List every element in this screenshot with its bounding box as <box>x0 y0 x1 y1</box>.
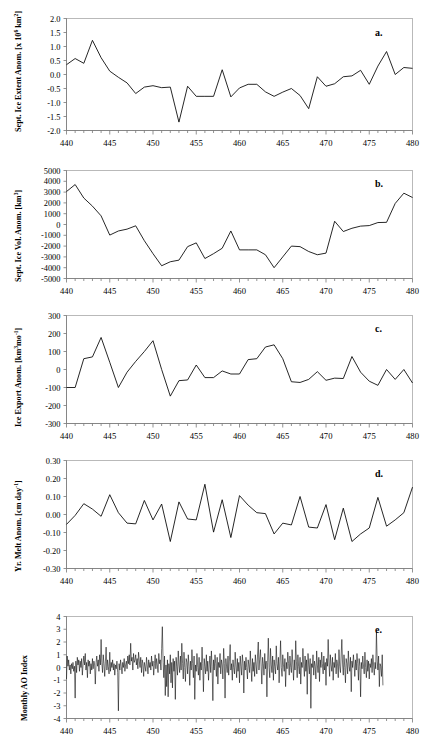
panel-e-xtick-label: 455 <box>190 726 203 736</box>
panel-e-ytick-label: -3 <box>54 702 61 711</box>
panel-e-ytick-label: 2 <box>56 638 60 647</box>
panel-d-xtick-label: 440 <box>60 576 73 586</box>
panel-e-letter: e. <box>375 624 382 635</box>
panel-e-y-ticks: 43210-1-2-3-4 <box>54 613 67 724</box>
panel-e-series-line <box>67 627 383 711</box>
panel-a-ytick-label: 0.0 <box>50 71 60 80</box>
panel-c-xtick-label: 455 <box>190 431 203 441</box>
panel-d-xtick-label: 455 <box>190 576 203 586</box>
panel-c-letter: c. <box>375 323 382 334</box>
panel-e-ytick-label: 4 <box>56 613 61 622</box>
panel-c-plot-frame <box>67 316 413 424</box>
panel-d-ylabel: Yr. Melt Anom. [cm day-1] <box>13 480 23 572</box>
panel-a-xtick-label: 460 <box>233 138 246 148</box>
panel-b-ytick-label: 4000 <box>44 177 61 186</box>
panel-c-ytick-label: -100 <box>45 384 60 393</box>
panel-e-xtick-label: 470 <box>320 726 333 736</box>
panel-a-ylabel-group: Sept. Ice Extent Anom. [x 106 km2] <box>13 11 23 132</box>
panel-c-ytick-label: 200 <box>48 330 61 339</box>
panel-b-xtick-label: 460 <box>233 286 246 296</box>
panel-b-svg: Sept. Ice Vol. Anom. [km3] 5000400030002… <box>0 160 424 305</box>
panel-d-xtick-label: 465 <box>276 576 289 586</box>
panel-a-ytick-label: -2.0 <box>47 127 60 136</box>
panel-b-y-ticks: 500040003000200010000-1000-2000-3000-400… <box>41 167 67 284</box>
panel-a-y-ticks: 2.01.51.00.50.0-0.5-1.0-1.5-2.0 <box>47 15 66 136</box>
panel-a-ytick-label: 2.0 <box>50 15 60 24</box>
panel-b-ylabel: Sept. Ice Vol. Anom. [km3] <box>13 190 23 282</box>
panel-a-xtick-label: 445 <box>103 138 116 148</box>
panel-b-ytick-label: 2000 <box>44 199 61 208</box>
panel-e: Monthly AO Index 43210-1-2-3-4 440445450… <box>0 595 424 754</box>
panel-e-ytick-label: -2 <box>54 689 61 698</box>
panel-d-ytick-label: 0.20 <box>46 475 61 484</box>
panel-d-xtick-label: 450 <box>147 576 160 586</box>
panel-a-xtick-label: 465 <box>276 138 289 148</box>
panel-b-ytick-label: 5000 <box>44 167 61 176</box>
panel-c-xtick-label: 465 <box>276 431 289 441</box>
panel-b-xtick-label: 445 <box>103 286 116 296</box>
panel-c-xtick-label: 440 <box>60 431 73 441</box>
panel-c-ylabel: Ice Export Anom. [km3mo-1] <box>13 327 23 427</box>
panel-c-xtick-label: 460 <box>233 431 246 441</box>
panel-d-ytick-label: -0.20 <box>43 547 60 556</box>
panel-a-x-ticks: 440445450455460465470475480 <box>60 131 419 149</box>
panel-b-ylabel-group: Sept. Ice Vol. Anom. [km3] <box>13 190 23 282</box>
panel-c-xtick-label: 475 <box>363 431 376 441</box>
panel-e-xtick-label: 475 <box>363 726 376 736</box>
panel-c-y-ticks: 3002001000-100-200-300 <box>45 312 66 429</box>
panel-a-svg: Sept. Ice Extent Anom. [x 106 km2] 2.01.… <box>0 0 424 160</box>
panel-c-ytick-label: 300 <box>48 312 61 321</box>
panel-d-y-ticks: 0.300.200.100.00-0.10-0.20-0.30 <box>43 457 66 574</box>
panel-d: Yr. Melt Anom. [cm day-1] 0.300.200.100.… <box>0 450 424 595</box>
panel-a-ytick-label: -1.5 <box>47 113 60 122</box>
panel-a-xtick-label: 475 <box>363 138 376 148</box>
panel-b-ytick-label: -2000 <box>41 242 61 251</box>
panel-e-ytick-label: 1 <box>56 651 60 660</box>
panel-e-ylabel-group: Monthly AO Index <box>20 654 29 721</box>
panel-a-ytick-label: -0.5 <box>47 85 60 94</box>
panel-a-xtick-label: 450 <box>147 138 160 148</box>
panel-b-ytick-label: 3000 <box>44 188 61 197</box>
panel-b-ytick-label: -1000 <box>41 231 61 240</box>
panel-e-ytick-label: -1 <box>54 676 61 685</box>
panel-d-xtick-label: 475 <box>363 576 376 586</box>
panel-e-x-ticks: 440445450455460465470475480 <box>60 719 419 737</box>
panel-c-svg: Ice Export Anom. [km3mo-1] 3002001000-10… <box>0 305 424 450</box>
panel-a-series-line <box>67 40 413 122</box>
panel-c: Ice Export Anom. [km3mo-1] 3002001000-10… <box>0 305 424 450</box>
panel-c-xtick-label: 445 <box>103 431 116 441</box>
panel-d-series-line <box>67 484 413 541</box>
panel-c-xtick-label: 480 <box>406 431 419 441</box>
panel-a-ylabel: Sept. Ice Extent Anom. [x 106 km2] <box>13 11 23 132</box>
panel-b-xtick-label: 475 <box>363 286 376 296</box>
panel-d-ytick-label: 0.10 <box>46 493 61 502</box>
panel-b-xtick-label: 465 <box>276 286 289 296</box>
panel-b-ytick-label: -4000 <box>41 264 61 273</box>
panel-b: Sept. Ice Vol. Anom. [km3] 5000400030002… <box>0 160 424 305</box>
panel-b-ytick-label: -5000 <box>41 275 61 284</box>
panel-b-x-ticks: 440445450455460465470475480 <box>60 279 419 297</box>
panel-c-xtick-label: 450 <box>147 431 160 441</box>
panel-e-xtick-label: 450 <box>147 726 160 736</box>
panel-a-xtick-label: 480 <box>406 138 419 148</box>
panel-a-ytick-label: 1.0 <box>50 43 60 52</box>
panel-d-svg: Yr. Melt Anom. [cm day-1] 0.300.200.100.… <box>0 450 424 595</box>
panel-e-xtick-label: 440 <box>60 726 73 736</box>
panel-a-xtick-label: 455 <box>190 138 203 148</box>
panel-b-ytick-label: 0 <box>56 221 60 230</box>
panel-a-xtick-label: 440 <box>60 138 73 148</box>
panel-b-xtick-label: 455 <box>190 286 203 296</box>
panel-d-xtick-label: 460 <box>233 576 246 586</box>
panel-d-ylabel-group: Yr. Melt Anom. [cm day-1] <box>13 480 23 572</box>
panel-d-xtick-label: 480 <box>406 576 419 586</box>
panel-b-xtick-label: 470 <box>320 286 333 296</box>
panel-b-plot-frame <box>67 171 413 279</box>
figure-container: Sept. Ice Extent Anom. [x 106 km2] 2.01.… <box>0 0 424 754</box>
panel-e-xtick-label: 480 <box>406 726 419 736</box>
panel-a-ytick-label: 1.5 <box>50 29 60 38</box>
panel-c-ytick-label: -300 <box>45 420 60 429</box>
panel-d-xtick-label: 470 <box>320 576 333 586</box>
panel-c-series-line <box>67 337 413 396</box>
panel-e-ylabel: Monthly AO Index <box>20 654 29 721</box>
panel-c-ytick-label: -200 <box>45 402 60 411</box>
